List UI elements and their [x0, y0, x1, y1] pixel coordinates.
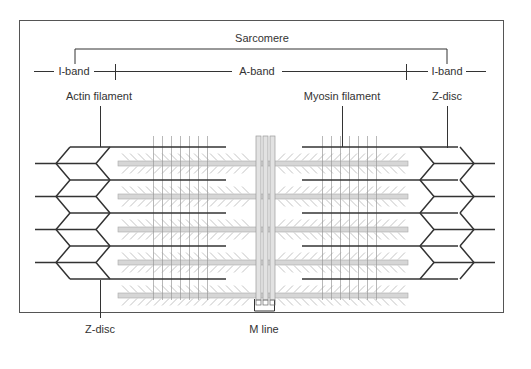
- myosin-head: [358, 154, 365, 161]
- myosin-head: [154, 253, 161, 260]
- myosin-head: [398, 233, 405, 240]
- myosin-head: [398, 154, 405, 161]
- myosin-head: [138, 167, 145, 174]
- myosin-head: [234, 286, 241, 293]
- myosin-head: [366, 200, 373, 207]
- myosin-head: [242, 233, 249, 240]
- myosin-head: [278, 220, 285, 227]
- myosin-head: [130, 154, 137, 161]
- myosin-head: [366, 233, 373, 240]
- myosin-head: [358, 220, 365, 227]
- myosin-head: [146, 266, 153, 273]
- myosin-head: [242, 299, 249, 306]
- myosin-head: [154, 167, 161, 174]
- myosin-head: [374, 167, 381, 174]
- myosin-head: [342, 187, 349, 194]
- myosin-head: [382, 167, 389, 174]
- myosin-head: [278, 299, 285, 306]
- myosin-head: [154, 187, 161, 194]
- myosin-head: [326, 299, 333, 306]
- myosin-head: [326, 154, 333, 161]
- myosin-head: [146, 233, 153, 240]
- myosin-head: [210, 299, 217, 306]
- myosin-head: [374, 299, 381, 306]
- z-disc-bottom-label: Z-disc: [85, 323, 115, 335]
- myosin-head: [138, 266, 145, 273]
- myosin-head: [130, 200, 137, 207]
- myosin-head: [210, 266, 217, 273]
- myosin-head: [334, 266, 341, 273]
- myosin-head: [318, 233, 325, 240]
- myosin-head: [194, 266, 201, 273]
- myosin-head: [138, 220, 145, 227]
- m-line-bar: [263, 136, 268, 300]
- myosin-head: [162, 154, 169, 161]
- myosin-head: [302, 253, 309, 260]
- myosin-head: [130, 187, 137, 194]
- myosin-head: [242, 187, 249, 194]
- myosin-head: [390, 154, 397, 161]
- myosin-head: [242, 286, 249, 293]
- myosin-head: [218, 233, 225, 240]
- myosin-head: [170, 167, 177, 174]
- myosin-head: [170, 187, 177, 194]
- myosin-head: [146, 187, 153, 194]
- myosin-head: [210, 154, 217, 161]
- myosin-head: [374, 200, 381, 207]
- myosin-head: [218, 266, 225, 273]
- myosin-head: [178, 200, 185, 207]
- z-disc-segment: [96, 180, 110, 213]
- myosin-head: [326, 187, 333, 194]
- myosin-head: [334, 187, 341, 194]
- myosin-head: [294, 154, 301, 161]
- myosin-head: [326, 220, 333, 227]
- myosin-head: [178, 187, 185, 194]
- myosin-head: [358, 266, 365, 273]
- myosin-head: [234, 233, 241, 240]
- myosin-head: [146, 220, 153, 227]
- myosin-head: [318, 167, 325, 174]
- myosin-head: [226, 187, 233, 194]
- z-disc-segment: [420, 213, 434, 246]
- myosin-head: [234, 167, 241, 174]
- myosin-head: [218, 253, 225, 260]
- myosin-head: [162, 187, 169, 194]
- myosin-head: [162, 220, 169, 227]
- myosin-head: [382, 220, 389, 227]
- myosin-head: [170, 266, 177, 273]
- myosin-head: [350, 286, 357, 293]
- myosin-head: [286, 266, 293, 273]
- m-line-bar: [256, 136, 261, 300]
- myosin-head: [210, 233, 217, 240]
- myosin-head: [286, 233, 293, 240]
- myosin-head: [234, 187, 241, 194]
- myosin-head: [382, 233, 389, 240]
- myosin-head: [226, 154, 233, 161]
- myosin-head: [342, 299, 349, 306]
- myosin-head: [390, 187, 397, 194]
- myosin-head: [278, 266, 285, 273]
- myosin-head: [286, 253, 293, 260]
- myosin-head: [334, 299, 341, 306]
- myosin-head: [374, 266, 381, 273]
- myosin-head: [226, 167, 233, 174]
- myosin-head: [162, 167, 169, 174]
- myosin-head: [326, 167, 333, 174]
- myosin-head: [326, 286, 333, 293]
- myosin-head: [226, 200, 233, 207]
- myosin-head: [326, 200, 333, 207]
- myosin-head: [390, 167, 397, 174]
- myosin-head: [210, 220, 217, 227]
- m-line-box: [256, 300, 261, 305]
- myosin-head: [210, 253, 217, 260]
- myosin-head: [194, 220, 201, 227]
- myosin-head: [130, 167, 137, 174]
- myosin-head: [390, 286, 397, 293]
- myosin-head: [138, 299, 145, 306]
- myosin-head: [146, 167, 153, 174]
- myosin-head: [366, 167, 373, 174]
- myosin-head: [398, 200, 405, 207]
- myosin-head: [154, 154, 161, 161]
- myosin-head: [194, 253, 201, 260]
- myosin-head: [202, 167, 209, 174]
